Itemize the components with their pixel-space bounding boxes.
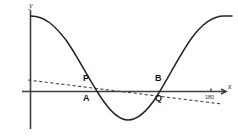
point-label-q: Q: [155, 94, 162, 103]
point-label-b: B: [155, 74, 162, 83]
cosine-curve: [31, 16, 232, 120]
y-axis-label: y: [29, 2, 33, 10]
graph-canvas: [0, 0, 238, 137]
x-tick-label-180: 180: [205, 95, 214, 101]
trig-graph-figure: y x P A B Q 180: [0, 0, 238, 137]
point-label-p: P: [83, 74, 89, 83]
x-axis-label: x: [228, 83, 232, 91]
point-label-a: A: [83, 94, 90, 103]
